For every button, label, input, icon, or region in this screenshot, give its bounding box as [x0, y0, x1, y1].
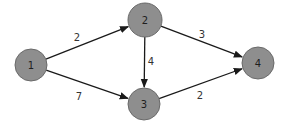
node-label: 3 — [141, 99, 147, 110]
node-label: 4 — [255, 58, 261, 69]
node-label: 1 — [28, 60, 34, 71]
edge-weight-label: 4 — [148, 56, 154, 67]
node-label: 2 — [142, 15, 148, 26]
edge-1-2 — [46, 27, 128, 60]
edge-2-3 — [144, 37, 145, 87]
edge-weight-label: 3 — [199, 29, 205, 40]
node-4: 4 — [242, 47, 274, 79]
node-2: 2 — [128, 3, 162, 37]
edge-1-3 — [46, 70, 128, 98]
edge-weight-label: 7 — [76, 91, 82, 102]
graph-diagram: 27432 1234 — [0, 0, 286, 127]
node-3: 3 — [128, 88, 160, 120]
graph-svg: 27432 1234 — [0, 0, 286, 127]
edge-weight-label: 2 — [74, 32, 80, 43]
edge-weight-label: 2 — [197, 90, 203, 101]
node-1: 1 — [15, 49, 47, 81]
